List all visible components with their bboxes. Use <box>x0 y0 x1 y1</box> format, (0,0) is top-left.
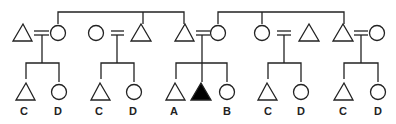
male-triangle-icon <box>13 24 32 41</box>
kinship-diagram: C D C D A B C D C D <box>0 0 396 124</box>
male-triangle-icon <box>334 83 353 100</box>
ego-filled-triangle-icon <box>191 83 211 100</box>
female-circle-icon <box>52 85 67 100</box>
female-circle-icon <box>220 85 235 100</box>
male-triangle-icon <box>166 83 185 100</box>
label-c3-child1: A <box>170 105 178 117</box>
label-c4-child1: C <box>264 105 272 117</box>
label-c4-child2: D <box>297 105 305 117</box>
label-c1-child2: D <box>54 105 62 117</box>
female-circle-icon <box>370 26 385 41</box>
female-circle-icon <box>211 26 226 41</box>
label-c1-child1: C <box>20 105 28 117</box>
label-c5-child1: C <box>339 105 347 117</box>
label-c2-child1: C <box>95 105 103 117</box>
male-triangle-icon <box>175 24 194 41</box>
male-triangle-icon <box>258 83 277 100</box>
male-triangle-icon <box>333 24 353 41</box>
female-circle-icon <box>51 26 66 41</box>
label-c5-child2: D <box>374 105 382 117</box>
couple-4 <box>255 24 320 100</box>
female-circle-icon <box>89 26 104 41</box>
label-c3-child3: B <box>223 105 231 117</box>
male-triangle-icon <box>299 24 319 41</box>
male-triangle-icon <box>131 24 151 41</box>
female-circle-icon <box>127 85 142 100</box>
female-circle-icon <box>294 85 309 100</box>
female-circle-icon <box>255 26 270 41</box>
male-triangle-icon <box>16 83 35 100</box>
male-triangle-icon <box>91 83 110 100</box>
couple-1 <box>13 24 67 100</box>
label-c2-child2: D <box>129 105 137 117</box>
sibling-connector-right <box>218 12 344 24</box>
sibling-connector-left <box>58 12 184 24</box>
female-circle-icon <box>371 85 386 100</box>
couple-5 <box>333 24 386 100</box>
couple-3 <box>166 24 235 100</box>
couple-2 <box>89 24 152 100</box>
